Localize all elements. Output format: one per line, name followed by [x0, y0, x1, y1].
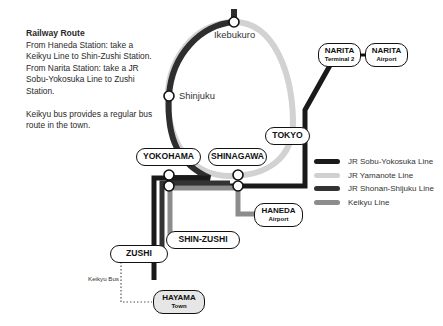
- station-narita-airport[interactable]: NARITA Airport: [365, 43, 408, 67]
- legend-item-keikyu: Keikyu Line: [314, 196, 434, 210]
- station-haneda-sub: Airport: [255, 215, 302, 223]
- station-hayama-sub: Town: [154, 302, 204, 310]
- station-zushi-label: ZUSHI: [126, 248, 152, 258]
- legend: JR Sobu-Yokosuka Line JR Yamanote Line J…: [314, 155, 434, 209]
- legend-swatch-keikyu: [314, 200, 340, 205]
- station-narita-airport-name: NARITA: [372, 46, 402, 55]
- legend-label: Keikyu Line: [348, 198, 389, 207]
- station-haneda[interactable]: HANEDA Airport: [254, 203, 303, 227]
- yokohama-dot-1[interactable]: [164, 170, 174, 180]
- station-hayama[interactable]: HAYAMA Town: [153, 290, 205, 314]
- yokohama-dot-2[interactable]: [164, 181, 174, 191]
- station-tokyo-label: TOKYO: [272, 130, 302, 140]
- station-narita-airport-sub: Airport: [366, 55, 407, 63]
- station-hayama-name: HAYAMA: [162, 293, 196, 302]
- legend-swatch-sobu-yokosuka: [314, 159, 340, 164]
- ikebukuro-dot[interactable]: [229, 17, 239, 27]
- legend-item-yamanote: JR Yamanote Line: [314, 169, 434, 183]
- keikyu-bus-label: Keikyu Bus: [88, 275, 119, 282]
- station-haneda-name: HANEDA: [261, 206, 295, 215]
- station-shinagawa[interactable]: SHINAGAWA: [208, 148, 267, 166]
- station-narita-t2-sub: Terminal 2: [319, 55, 360, 63]
- legend-label: JR Yamanote Line: [348, 171, 413, 180]
- legend-item-sobu-yokosuka: JR Sobu-Yokosuka Line: [314, 155, 434, 169]
- station-shin-zushi-label: SHIN-ZUSHI: [178, 234, 227, 244]
- station-shinagawa-label: SHINAGAWA: [211, 151, 264, 161]
- station-tokyo[interactable]: TOKYO: [265, 127, 310, 145]
- station-label-shinjuku[interactable]: Shinjuku: [179, 90, 215, 101]
- station-narita-terminal2[interactable]: NARITA Terminal 2: [318, 43, 361, 67]
- legend-item-shonan-shinjuku: JR Shonan-Shijuku Line: [314, 182, 434, 196]
- legend-swatch-shonan-shinjuku: [314, 186, 340, 191]
- station-label-ikebukuro[interactable]: Ikebukuro: [214, 29, 255, 40]
- station-yokohama-label: YOKOHAMA: [143, 151, 194, 161]
- keikyu-bus-route: [121, 262, 152, 302]
- shinagawa-dot-2[interactable]: [233, 181, 243, 191]
- legend-swatch-yamanote: [314, 173, 340, 178]
- station-narita-t2-name: NARITA: [325, 46, 355, 55]
- shinagawa-dot-1[interactable]: [233, 170, 243, 180]
- shinjuku-dot[interactable]: [164, 91, 174, 101]
- legend-label: JR Shonan-Shijuku Line: [348, 184, 434, 193]
- station-yokohama[interactable]: YOKOHAMA: [136, 148, 201, 166]
- legend-label: JR Sobu-Yokosuka Line: [348, 157, 433, 166]
- station-zushi[interactable]: ZUSHI: [110, 245, 168, 263]
- station-shin-zushi[interactable]: SHIN-ZUSHI: [166, 231, 240, 249]
